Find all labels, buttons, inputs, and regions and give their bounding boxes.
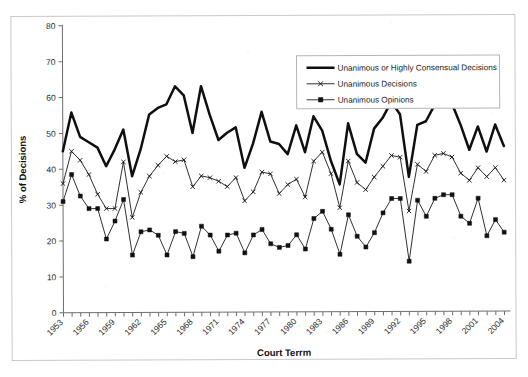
series-marker-x — [286, 182, 290, 186]
x-tick-label: 1998 — [434, 315, 455, 336]
legend-label: Unanimous or Highly Consensual Decisions — [338, 63, 497, 73]
y-axis-title: % of Decisions — [17, 136, 28, 204]
line-chart: 01020304050607080% of Decisions195319561… — [11, 15, 515, 360]
series-marker-x — [458, 171, 462, 175]
series-marker-x — [476, 165, 480, 169]
x-tick-label: 2004 — [486, 315, 507, 336]
series-marker-x — [450, 155, 454, 159]
series-marker-square — [329, 227, 333, 231]
series-marker-square — [398, 196, 402, 200]
x-tick-label: 1980 — [278, 316, 299, 337]
x-tick-label: 1962 — [122, 317, 143, 338]
x-tick-label: 1992 — [382, 316, 403, 337]
series-marker-x — [225, 184, 229, 188]
y-tick-label: 30 — [47, 200, 57, 210]
series-marker-square — [476, 196, 480, 200]
series-marker-square — [78, 194, 82, 198]
x-tick-label: 1995 — [408, 316, 429, 337]
legend-label: Unanimous Decisions — [338, 79, 417, 88]
series-marker-x — [355, 180, 359, 184]
series-marker-x — [87, 172, 91, 176]
series-marker-square — [390, 196, 394, 200]
x-tick-label: 1953 — [45, 317, 66, 338]
series-marker-square — [338, 252, 342, 256]
x-tick-label: 1974 — [226, 316, 247, 337]
series-marker-x — [502, 178, 506, 182]
series-marker-square — [277, 245, 281, 249]
series-marker-square — [96, 207, 100, 211]
series-marker-square — [182, 231, 186, 235]
series-marker-square — [295, 233, 299, 237]
y-tick-label: 70 — [46, 57, 56, 67]
series-marker-square — [407, 259, 411, 263]
series-marker-square — [372, 231, 376, 235]
series-marker-square — [165, 253, 169, 257]
series-marker-square — [208, 233, 212, 237]
legend-marker-square — [318, 98, 322, 102]
series-marker-square — [441, 193, 445, 197]
series-marker-square — [312, 217, 316, 221]
series-marker-square — [459, 214, 463, 218]
series-marker-square — [485, 234, 489, 238]
series-marker-x — [424, 169, 428, 173]
series-marker-square — [104, 237, 108, 241]
series-marker-x — [216, 179, 220, 183]
series-marker-square — [243, 251, 247, 255]
y-tick-label: 40 — [46, 164, 56, 174]
series-marker-square — [269, 242, 273, 246]
series-marker-square — [424, 214, 428, 218]
y-tick-label: 20 — [47, 236, 57, 246]
series-marker-x — [277, 191, 281, 195]
series-marker-square — [87, 207, 91, 211]
series-marker-square — [174, 230, 178, 234]
series-marker-square — [61, 200, 65, 204]
series-marker-square — [70, 173, 74, 177]
series-marker-x — [190, 185, 194, 189]
series-marker-x — [147, 174, 151, 178]
y-tick-label: 80 — [46, 21, 56, 31]
series-marker-square — [139, 230, 143, 234]
series-marker-square — [199, 224, 203, 228]
series-marker-square — [355, 234, 359, 238]
x-tick-label: 1959 — [96, 317, 117, 338]
series-marker-x — [78, 158, 82, 162]
series-marker-square — [130, 253, 134, 257]
series-marker-square — [468, 221, 472, 225]
series-marker-square — [346, 213, 350, 217]
series-marker-x — [164, 154, 168, 158]
y-tick-label: 10 — [47, 272, 57, 282]
series-marker-square — [493, 218, 497, 222]
series-marker-square — [234, 231, 238, 235]
series-marker-square — [260, 227, 264, 231]
series-marker-square — [191, 255, 195, 259]
x-tick-label: 2001 — [460, 315, 481, 336]
x-axis-title: Court Terrm — [257, 347, 311, 358]
series-marker-square — [156, 233, 160, 237]
series-marker-square — [320, 209, 324, 213]
series-marker-square — [217, 249, 221, 253]
series-marker-square — [381, 211, 385, 215]
series-marker-x — [234, 175, 238, 179]
y-tick-label: 50 — [46, 129, 56, 139]
series-marker-x — [484, 174, 488, 178]
series-marker-square — [416, 198, 420, 202]
series-marker-x — [467, 178, 471, 182]
series-marker-x — [242, 199, 246, 203]
series-marker-x — [363, 187, 367, 191]
x-tick-label: 1989 — [356, 316, 377, 337]
series-marker-square — [251, 233, 255, 237]
series-marker-square — [364, 245, 368, 249]
series-marker-square — [450, 193, 454, 197]
series-marker-x — [381, 164, 385, 168]
y-tick-label: 60 — [46, 93, 56, 103]
series-marker-square — [502, 230, 506, 234]
series-marker-square — [433, 196, 437, 200]
legend-label: Unanimous Opinions — [338, 95, 414, 104]
series-marker-x — [493, 165, 497, 169]
series-marker-x — [372, 175, 376, 179]
x-tick-label: 1968 — [174, 316, 195, 337]
x-tick-label: 1971 — [200, 316, 221, 337]
series-line-3 — [63, 173, 504, 263]
series-marker-square — [122, 198, 126, 202]
series-marker-square — [148, 228, 152, 232]
